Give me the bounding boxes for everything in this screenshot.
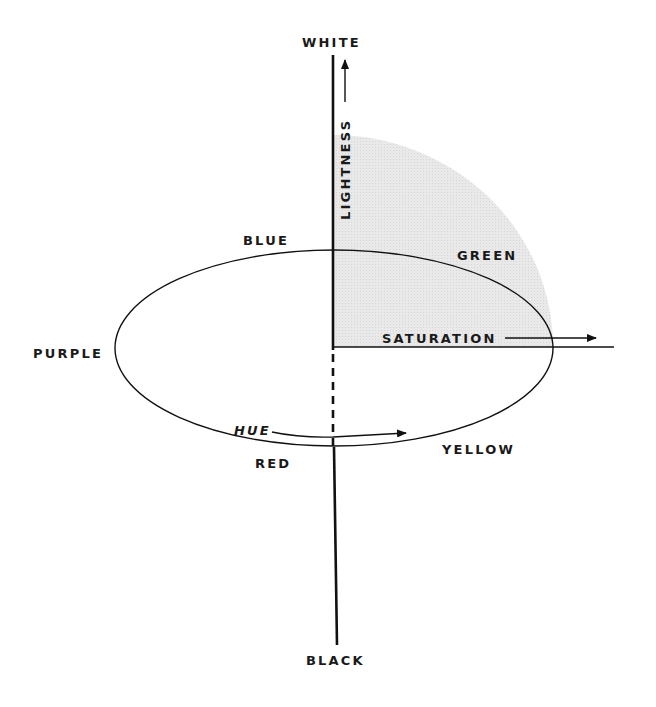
- label-hue: HUE: [234, 423, 271, 438]
- label-lightness: LIGHTNESS: [338, 119, 353, 220]
- label-red: RED: [255, 456, 291, 471]
- hue-arrow: [272, 432, 406, 437]
- label-white: WHITE: [302, 35, 361, 50]
- shaded-plane-region: [333, 135, 553, 347]
- label-yellow: YELLOW: [441, 442, 515, 457]
- label-saturation: SATURATION: [382, 331, 497, 346]
- lightness-axis-lower: [334, 447, 337, 645]
- label-purple: PURPLE: [33, 346, 103, 361]
- label-black: BLACK: [306, 653, 365, 668]
- color-space-diagram: WHITE BLACK PURPLE BLUE GREEN YELLOW RED…: [0, 0, 656, 707]
- label-green: GREEN: [457, 248, 517, 263]
- label-blue: BLUE: [243, 233, 289, 248]
